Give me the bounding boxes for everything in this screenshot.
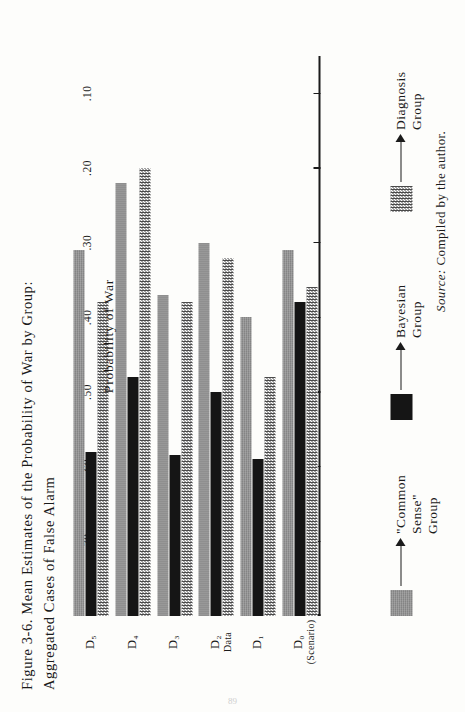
bar-d4-diagnosisgroup [139,168,150,616]
bar-d4-bayesiangroup [127,377,138,616]
bar-d5-commonsensegroup [73,250,84,616]
category-sublabel-scenario: (Scenario) [304,620,315,665]
figure-title-line2: Aggregated Cases of False Alarm [40,477,57,691]
legend-label: Bayesian Group [392,285,424,339]
x-axis-label: Data [221,632,232,652]
bar-d3-commonsensegroup [157,295,168,616]
bar-d3-bayesiangroup [169,455,180,616]
axis-tick-label: .30 [80,235,92,251]
category-label-d5: D₅ [82,635,97,649]
bar-d0-commonsensegroup [282,250,293,616]
source-note: Source: Compiled by the author. [432,131,448,312]
bar-d1-bayesiangroup [252,459,263,616]
bar-d3-diagnosisgroup [181,302,192,616]
bar-d2-bayesiangroup [210,392,221,616]
bar-d0-bayesiangroup [294,302,305,616]
category-label-d2: D₂ [207,635,222,649]
legend-arrow-line [400,140,401,182]
category-label-d3: D₃ [165,635,180,649]
legend-label: "Common Sense" Group [392,475,440,534]
legend-arrow-icon [395,134,405,142]
legend-label: Diagnosis Group [392,72,424,131]
legend-arrow-icon [395,342,405,350]
category-label-d4: D₄ [124,635,139,649]
bar-chart-plot: .70.60.50.40.30.20.10 D₀(Scenario)D₁D₂Da… [70,56,320,616]
axis-tick [313,167,320,168]
bar-d4-commonsensegroup [115,183,126,616]
chart-legend: "Common Sense" GroupBayesian GroupDiagno… [376,36,436,616]
figure-title-line1: Figure 3-6. Mean Estimates of the Probab… [18,281,35,690]
axis-tick-label: .20 [80,160,92,176]
category-label-d0: D₀ [290,635,305,649]
y-axis-label: Probability of War [100,56,116,616]
axis-tick [313,93,320,94]
bar-d1-commonsensegroup [240,317,251,616]
legend-arrow-icon [395,538,405,546]
axis-tick-label: .10 [80,85,92,101]
bar-d2-commonsensegroup [198,243,209,616]
page-folio: 89 [0,696,465,706]
legend-arrow-line [400,348,401,390]
figure-page: Figure 3-6. Mean Estimates of the Probab… [0,0,465,712]
black-swatch [390,394,412,420]
bar-d0-diagnosisgroup [306,287,317,616]
checkered-swatch [390,186,412,212]
legend-arrow-line [400,544,401,586]
gray-swatch [390,590,412,616]
source-label: Source: [432,269,447,312]
value-axis-line [318,56,320,616]
axis-tick [313,242,320,243]
category-label-d1: D₁ [249,635,264,649]
source-text: Compiled by the author. [432,131,447,266]
bar-d1-diagnosisgroup [264,377,275,616]
bar-d5-bayesiangroup [85,452,96,616]
bar-d2-diagnosisgroup [222,258,233,616]
